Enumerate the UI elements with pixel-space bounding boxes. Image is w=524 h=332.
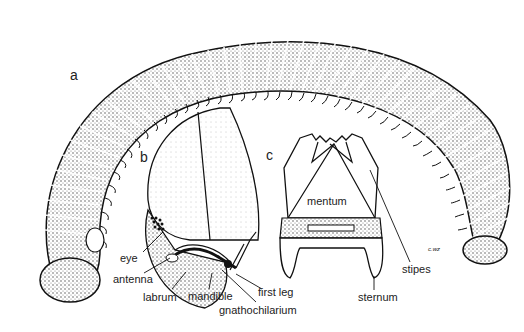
label-labrum: labrum	[143, 292, 177, 303]
label-gnathochilarium: gnathochilarium	[219, 305, 297, 316]
artist-signature: c.wz	[428, 246, 440, 252]
label-first-leg: first leg	[258, 287, 293, 298]
label-stipes: stipes	[402, 264, 431, 275]
label-eye: eye	[120, 253, 138, 264]
panel-label-b: b	[140, 150, 148, 164]
label-mentum: mentum	[307, 196, 347, 207]
gnathochilarium-view	[280, 134, 410, 290]
label-antenna: antenna	[113, 274, 153, 285]
label-mandible: mandible	[188, 291, 233, 302]
millipede-body	[40, 40, 510, 302]
panel-label-c: c	[266, 148, 273, 162]
label-sternum: sternum	[358, 292, 398, 303]
illustration-canvas	[0, 0, 524, 332]
head-lateral-view	[146, 108, 259, 308]
panel-label-a: a	[70, 68, 78, 82]
